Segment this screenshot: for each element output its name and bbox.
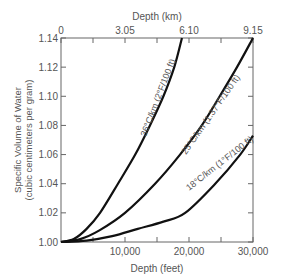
axis-labels: Depth (feet) Depth (km) Specific Volume … [12,11,183,274]
y-tick-label: 1.14 [39,33,59,44]
x-tick-label: 20,000 [174,246,205,257]
y-axis-title: Specific Volume of Water [12,87,23,193]
curves [61,38,253,242]
y-tick-label: 1.02 [39,207,59,218]
x2-tick-label: 3.05 [115,25,135,36]
depth-specific-volume-chart: 1.001.021.041.061.081.101.121.1410,00020… [0,0,284,276]
curve-series-1 [61,38,253,242]
y-tick-label: 1.12 [39,62,59,73]
y-tick-label: 1.04 [39,178,59,189]
y-tick-label: 1.00 [39,237,59,248]
curve-label-25: 25°C/km (1.37°F/100 ft) [179,73,242,156]
x-tick-label: 30,000 [238,246,269,257]
y-tick-label: 1.08 [39,120,59,131]
x2-axis-title: Depth (km) [132,11,181,22]
plot-frame: 1.001.021.041.061.081.101.121.1410,00020… [39,25,269,257]
x2-tick-label: 0 [58,25,64,36]
y-tick-label: 1.10 [39,91,59,102]
y-axis-subtitle: (cubic centimeters per gram) [23,80,34,201]
x-tick-label: 10,000 [110,246,141,257]
x-axis-title: Depth (feet) [131,263,184,274]
plot-border [61,38,253,242]
x2-tick-label: 6.10 [179,25,199,36]
curve-label-36: 36°C/km (2°F/100 ft) [139,57,178,137]
x2-tick-label: 9.15 [243,25,263,36]
curve-annotations: 36°C/km (2°F/100 ft) 25°C/km (1.37°F/100… [139,57,256,192]
y-tick-label: 1.06 [39,149,59,160]
